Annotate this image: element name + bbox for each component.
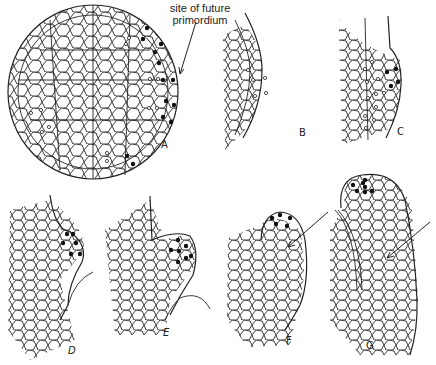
panel-label-e: E [163,328,169,338]
panel-label-b: B [299,128,306,138]
annotation-line-2: primordium [160,14,240,26]
panel-label-a: A [161,140,168,150]
panel-label-c: C [397,127,404,137]
panel-b-drawing [223,13,268,150]
panel-label-d: D [68,346,76,356]
annotation-line-1: site of future [160,2,240,14]
panel-f-drawing [227,212,328,347]
cell-drawing [0,0,436,365]
panel-a-drawing [8,5,196,179]
site-annotation: site of future primordium [160,2,240,26]
panel-label-g: G [366,341,374,351]
panel-e-drawing [105,196,210,335]
panel-g-drawing [330,174,430,355]
panel-d-drawing [8,195,93,360]
panel-label-f: F [286,336,292,346]
panel-c-drawing [339,16,402,145]
figure-canvas: site of future primordium A B C D E F G [0,0,436,365]
